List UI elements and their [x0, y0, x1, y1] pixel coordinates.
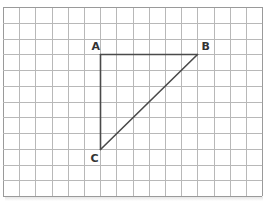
vertex-label-b: B — [202, 40, 210, 53]
grid-lines — [3, 7, 263, 197]
vertex-label-a: A — [92, 40, 101, 53]
vertex-label-c: C — [91, 152, 99, 165]
grid-diagram: ABC — [0, 0, 266, 205]
